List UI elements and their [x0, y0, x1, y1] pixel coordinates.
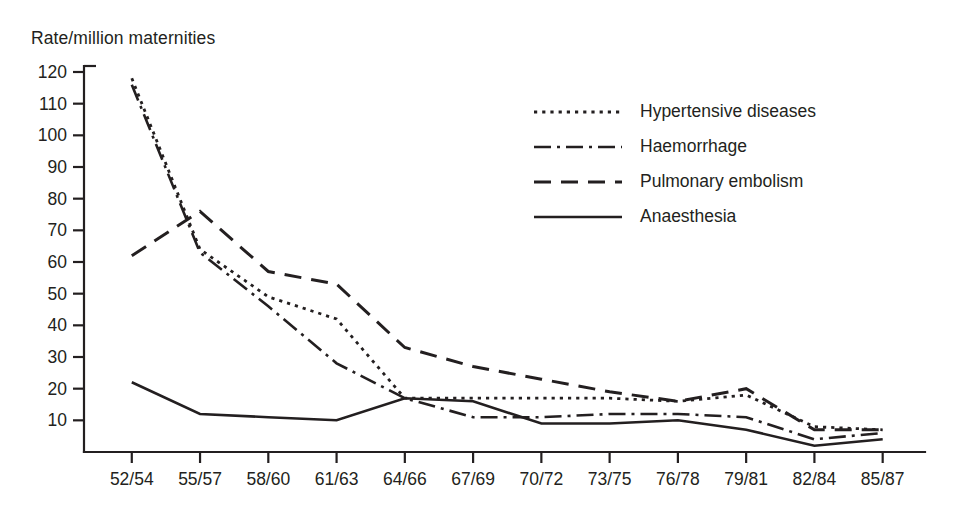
legend-label: Anaesthesia [640, 206, 737, 226]
y-tick-label: 20 [48, 379, 68, 399]
x-tick-label: 52/54 [110, 469, 154, 489]
y-tick-label: 70 [48, 220, 68, 240]
y-axis-ticks: 102030405060708090100110120 [38, 62, 96, 430]
line-chart: 102030405060708090100110120 52/5455/5758… [0, 0, 957, 515]
x-tick-label: 70/72 [519, 469, 563, 489]
x-tick-label: 76/78 [656, 469, 700, 489]
x-axis-ticks: 52/5455/5758/6061/6364/6667/6970/7273/75… [110, 452, 905, 489]
series-line [132, 85, 883, 440]
x-tick-label: 58/60 [246, 469, 290, 489]
legend-label: Hypertensive diseases [640, 101, 816, 121]
x-tick-label: 61/63 [315, 469, 359, 489]
y-tick-label: 120 [38, 62, 67, 82]
chart-container: Rate/million maternities 102030405060708… [0, 0, 957, 515]
legend-label: Haemorrhage [640, 136, 747, 156]
y-tick-label: 10 [48, 410, 68, 430]
x-tick-label: 79/81 [724, 469, 768, 489]
series-lines [132, 78, 883, 445]
x-tick-label: 64/66 [383, 469, 427, 489]
y-tick-label: 90 [48, 157, 68, 177]
legend-label: Pulmonary embolism [640, 171, 803, 191]
y-tick-label: 50 [48, 284, 68, 304]
chart-legend: Hypertensive diseasesHaemorrhagePulmonar… [534, 101, 816, 226]
series-line [132, 211, 883, 429]
y-tick-label: 60 [48, 252, 68, 272]
x-tick-label: 67/69 [451, 469, 495, 489]
x-tick-label: 82/84 [793, 469, 837, 489]
series-line [132, 78, 883, 430]
x-tick-label: 85/87 [861, 469, 905, 489]
y-tick-label: 40 [48, 315, 68, 335]
y-tick-label: 110 [39, 94, 67, 114]
y-tick-label: 30 [48, 347, 68, 367]
series-line [132, 382, 883, 445]
x-tick-label: 55/57 [178, 469, 222, 489]
x-tick-label: 73/75 [588, 469, 632, 489]
y-tick-label: 100 [38, 125, 67, 145]
y-tick-label: 80 [48, 189, 68, 209]
